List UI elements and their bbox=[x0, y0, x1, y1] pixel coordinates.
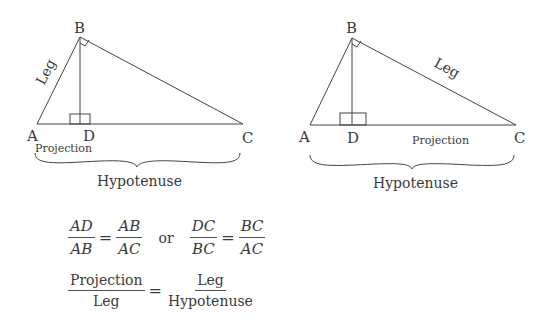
projection-label: Projection bbox=[412, 134, 469, 147]
denominator: AC bbox=[239, 238, 265, 258]
vertex-c-label: C bbox=[242, 129, 253, 147]
hypotenuse-brace bbox=[310, 155, 514, 169]
vertex-d-label: D bbox=[347, 129, 359, 147]
hypotenuse-brace bbox=[35, 153, 240, 167]
fraction-bc-ac: BC AC bbox=[239, 217, 266, 258]
numerator: Projection bbox=[68, 272, 145, 291]
fraction-leg-hypotenuse: Leg Hypotenuse bbox=[166, 272, 255, 309]
leg-label: Leg bbox=[32, 56, 58, 87]
denominator: AB bbox=[69, 238, 95, 258]
denominator: AC bbox=[116, 238, 142, 258]
vertex-b-label: B bbox=[74, 19, 85, 37]
right-triangle bbox=[310, 38, 516, 169]
leg-label: Leg bbox=[432, 55, 463, 82]
fraction-dc-bc: DC BC bbox=[190, 217, 218, 258]
vertex-a-label: A bbox=[298, 128, 310, 146]
numerator: AD bbox=[68, 217, 95, 238]
numerator: DC bbox=[190, 217, 218, 238]
equals-sign: = bbox=[99, 228, 112, 247]
right-angle-marker-d bbox=[340, 113, 366, 125]
fraction-ab-ac: AB AC bbox=[116, 217, 142, 258]
fraction-projection-leg: Projection Leg bbox=[68, 272, 145, 309]
numerator: AB bbox=[116, 217, 142, 238]
fraction-ad-ab: AD AB bbox=[68, 217, 95, 258]
vertex-b-label: B bbox=[346, 19, 357, 37]
denominator: Leg bbox=[91, 291, 122, 309]
hypotenuse-label: Hypotenuse bbox=[97, 173, 182, 189]
equation-row-2: Projection Leg = Leg Hypotenuse bbox=[66, 272, 257, 309]
equation-row-1: AD AB = AB AC or DC BC = BC AC bbox=[66, 217, 267, 258]
projection-label: Projection bbox=[35, 142, 92, 155]
denominator: Hypotenuse bbox=[166, 291, 255, 309]
equals-sign: = bbox=[221, 228, 234, 247]
or-connector: or bbox=[159, 230, 174, 246]
numerator: BC bbox=[239, 217, 266, 238]
denominator: BC bbox=[190, 238, 217, 258]
numerator: Leg bbox=[195, 272, 226, 291]
equals-sign: = bbox=[149, 281, 162, 300]
vertex-c-label: C bbox=[514, 129, 525, 147]
hypotenuse-label: Hypotenuse bbox=[373, 175, 458, 191]
